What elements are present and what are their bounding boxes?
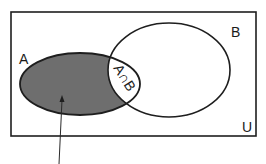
universe-label: U: [242, 119, 252, 135]
venn-diagram: A B U A∩B: [0, 0, 266, 164]
set-b-label: B: [231, 24, 240, 40]
set-a-label: A: [19, 51, 29, 67]
